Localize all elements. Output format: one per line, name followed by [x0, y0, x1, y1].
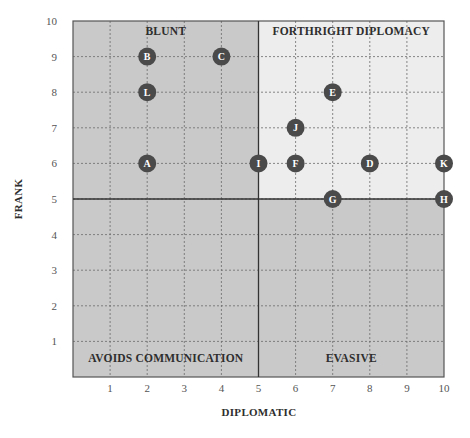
data-point-l: L — [138, 83, 156, 101]
quadrant-3 — [259, 199, 445, 377]
point-label: I — [257, 158, 261, 169]
y-tick-label: 5 — [52, 193, 58, 205]
quadrant-scatter-chart: BLUNTFORTHRIGHT DIPLOMACYAVOIDS COMMUNIC… — [0, 0, 470, 438]
point-label: B — [144, 51, 151, 62]
data-point-d: D — [361, 154, 379, 172]
data-point-e: E — [324, 83, 342, 101]
y-tick-label: 8 — [52, 86, 58, 98]
point-label: H — [440, 194, 448, 205]
x-tick-label: 7 — [330, 382, 336, 394]
x-tick-label: 2 — [144, 382, 150, 394]
point-label: L — [144, 87, 151, 98]
quadrant-0 — [73, 21, 259, 199]
data-point-i: I — [250, 154, 268, 172]
data-point-k: K — [435, 154, 453, 172]
y-tick-label: 2 — [52, 300, 58, 312]
y-axis-label: FRANK — [12, 179, 24, 220]
y-tick-label: 7 — [52, 122, 58, 134]
y-tick-label: 3 — [52, 264, 58, 276]
point-label: J — [293, 122, 298, 133]
x-tick-label: 10 — [439, 382, 451, 394]
quadrant-1 — [259, 21, 445, 199]
x-tick-label: 6 — [293, 382, 299, 394]
point-label: A — [144, 158, 152, 169]
x-tick-label: 3 — [182, 382, 188, 394]
data-point-b: B — [138, 48, 156, 66]
y-tick-label: 4 — [52, 229, 58, 241]
quadrant-label: BLUNT — [145, 25, 186, 37]
data-point-h: H — [435, 190, 453, 208]
y-tick-label: 9 — [52, 51, 58, 63]
y-tick-label: 10 — [46, 15, 58, 27]
data-point-j: J — [287, 119, 305, 137]
point-label: K — [440, 158, 448, 169]
y-tick-label: 1 — [52, 335, 58, 347]
y-tick-label: 6 — [52, 157, 58, 169]
quadrant-label: FORTHRIGHT DIPLOMACY — [272, 25, 430, 37]
quadrant-2 — [73, 199, 259, 377]
x-axis-label: DIPLOMATIC — [222, 406, 297, 418]
point-label: D — [366, 158, 373, 169]
x-axis-ticks: 12345678910 — [107, 382, 450, 394]
x-tick-label: 5 — [256, 382, 262, 394]
point-label: G — [329, 194, 337, 205]
data-point-f: F — [287, 154, 305, 172]
x-tick-label: 9 — [404, 382, 410, 394]
point-label: E — [329, 87, 336, 98]
quadrant-label: AVOIDS COMMUNICATION — [88, 352, 244, 364]
x-tick-label: 1 — [107, 382, 113, 394]
data-point-g: G — [324, 190, 342, 208]
x-tick-label: 8 — [367, 382, 373, 394]
point-label: C — [218, 51, 225, 62]
point-label: F — [293, 158, 299, 169]
data-point-a: A — [138, 154, 156, 172]
x-tick-label: 4 — [219, 382, 225, 394]
quadrant-label: EVASIVE — [326, 352, 377, 364]
data-point-c: C — [212, 48, 230, 66]
y-axis-ticks: 12345678910 — [46, 15, 58, 347]
